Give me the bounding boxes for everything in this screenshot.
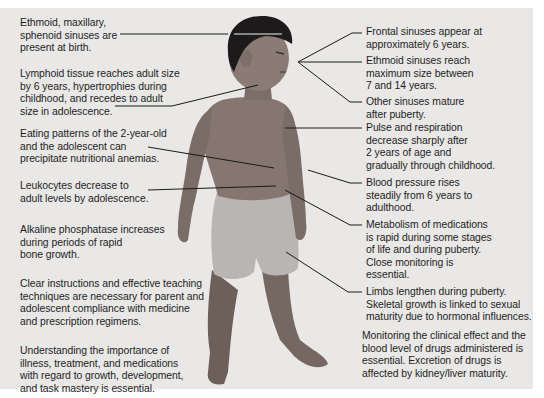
- label-lymphoid: Lymphoid tissue reaches adult size by 6 …: [20, 68, 180, 118]
- label-understanding: Understanding the importance of illness,…: [20, 345, 183, 395]
- leader-blood-pressure: [308, 170, 362, 183]
- label-other-sinuses: Other sinuses mature after puberty.: [366, 96, 464, 121]
- label-sinuses-birth: Ethmoid, maxillary, sphenoid sinuses are…: [20, 17, 117, 55]
- label-frontal: Frontal sinuses appear at approximately …: [366, 26, 482, 51]
- leader-frontal: [298, 33, 362, 62]
- label-leukocytes: Leukocytes decrease to adult levels by a…: [20, 180, 149, 205]
- child-body: [178, 16, 328, 385]
- label-eating: Eating patterns of the 2-year-old and th…: [20, 128, 167, 166]
- label-alkaline: Alkaline phosphatase increases during pe…: [20, 224, 165, 262]
- label-ethmoid-max: Ethmoid sinuses reach maximum size betwe…: [366, 55, 474, 93]
- label-monitoring: Monitoring the clinical effect and the b…: [362, 330, 526, 380]
- label-instructions: Clear instructions and effective teachin…: [20, 278, 204, 328]
- leader-other-sinuses: [298, 62, 362, 102]
- label-pulse: Pulse and respiration decrease sharply a…: [366, 122, 495, 172]
- label-limbs: Limbs lengthen during puberty. Skeletal …: [366, 286, 532, 324]
- label-metabolism: Metabolism of medications is rapid durin…: [366, 219, 492, 282]
- label-blood-pressure: Blood pressure rises steadily from 6 yea…: [366, 177, 472, 215]
